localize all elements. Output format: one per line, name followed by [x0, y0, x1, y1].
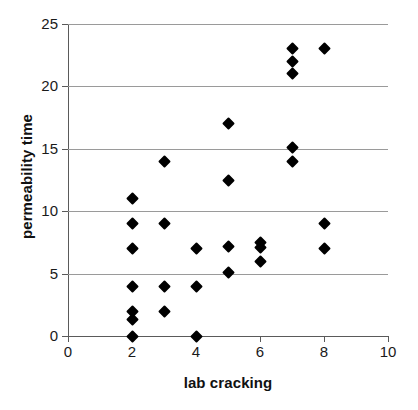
y-tick-5 — [62, 274, 68, 275]
x-tick-10 — [388, 336, 389, 342]
y-tick-label-0: 0 — [14, 328, 58, 344]
gridline-y-0 — [68, 336, 388, 337]
x-tick-0 — [68, 336, 69, 342]
y-tick-label-text: 0 — [14, 328, 58, 344]
x-tick-label-6: 6 — [240, 343, 280, 361]
y-tick-15 — [62, 149, 68, 150]
y-tick-20 — [62, 86, 68, 87]
y-tick-10 — [62, 211, 68, 212]
x-tick-label-10: 10 — [368, 343, 408, 361]
x-tick-label-8: 8 — [304, 343, 344, 361]
gridline-y-15 — [68, 149, 388, 150]
gridline-y-10 — [68, 211, 388, 212]
x-tick-label-0: 0 — [48, 343, 88, 361]
x-tick-6 — [260, 336, 261, 342]
y-axis-line — [68, 24, 69, 337]
y-tick-label-25: 25 — [14, 16, 58, 32]
x-tick-8 — [324, 336, 325, 342]
y-tick-label-text: 25 — [14, 16, 58, 32]
x-tick-label-4: 4 — [176, 343, 216, 361]
y-axis-title: permeability time — [18, 77, 35, 277]
y-tick-25 — [62, 24, 68, 25]
scatter-plot-figure: 0510152025 0246810 lab cracking permeabi… — [0, 0, 418, 410]
gridline-y-25 — [68, 24, 388, 25]
x-axis-title: lab cracking — [68, 374, 388, 391]
gridline-y-20 — [68, 86, 388, 87]
x-tick-label-2: 2 — [112, 343, 152, 361]
